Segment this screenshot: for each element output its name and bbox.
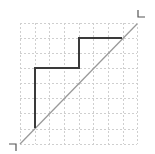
staircase-diagram — [0, 0, 155, 154]
start-corner-marker-icon — [9, 144, 16, 151]
end-corner-marker-icon — [138, 10, 145, 17]
